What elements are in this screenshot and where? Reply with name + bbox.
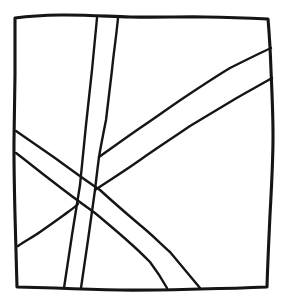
canvas-background	[0, 0, 282, 303]
line-drawing-svg: A hand-drawn square frame containing a n…	[0, 0, 282, 303]
figure-canvas: A hand-drawn square frame containing a n…	[0, 0, 282, 303]
